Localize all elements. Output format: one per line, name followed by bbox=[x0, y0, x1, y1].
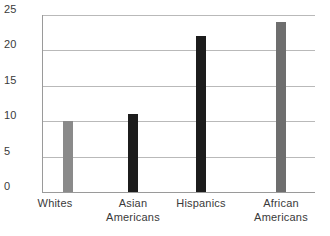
gridline-5 bbox=[42, 157, 315, 158]
bar-chart: 25 20 15 10 5 0 Whites Asian Americans H… bbox=[0, 0, 330, 236]
x-tick-label-hispanics-line1: Hispanics bbox=[176, 197, 226, 209]
y-tick-label-5: 5 bbox=[4, 146, 38, 157]
x-tick-label-hispanics: Hispanics bbox=[162, 196, 240, 210]
y-tick-label-0: 0 bbox=[4, 181, 38, 192]
gridline-0-baseline bbox=[42, 192, 315, 193]
bar-whites bbox=[63, 121, 73, 192]
x-tick-label-whites: Whites bbox=[28, 196, 82, 210]
x-tick-label-whites-line1: Whites bbox=[38, 197, 73, 209]
plot-area bbox=[42, 15, 315, 192]
x-tick-label-asian-americans-line1: Asian bbox=[119, 197, 148, 209]
bar-hispanics bbox=[196, 36, 206, 192]
y-tick-label-20: 20 bbox=[4, 39, 38, 50]
bar-asian-americans bbox=[128, 114, 138, 192]
y-axis-line bbox=[42, 15, 43, 193]
x-axis-labels: Whites Asian Americans Hispanics African… bbox=[42, 196, 315, 236]
gridline-25 bbox=[42, 15, 315, 16]
x-tick-label-african-americans-line2: Americans bbox=[238, 210, 324, 224]
x-tick-label-asian-americans-line2: Americans bbox=[90, 210, 176, 224]
y-tick-label-15: 15 bbox=[4, 75, 38, 86]
bar-african-americans bbox=[276, 22, 286, 192]
x-tick-label-african-americans-line1: African bbox=[263, 197, 299, 209]
gridline-15 bbox=[42, 86, 315, 87]
y-tick-label-25: 25 bbox=[4, 4, 38, 15]
gridline-10 bbox=[42, 121, 315, 122]
gridline-20 bbox=[42, 50, 315, 51]
y-tick-label-10: 10 bbox=[4, 110, 38, 121]
x-tick-label-african-americans: African Americans bbox=[238, 196, 324, 224]
